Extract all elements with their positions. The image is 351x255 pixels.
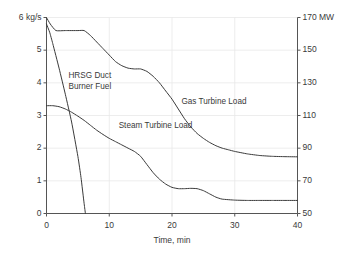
x-axis-tick-4: 40 [293,221,302,230]
y-axis-right-tick-4: 90 [303,143,312,152]
y-axis-right-tick-2: 130 [303,78,317,87]
y-axis-left-tick-6: 0 [37,209,42,218]
series-label-hrsg-line1: HRSG Duct [68,71,111,80]
y-axis-left-tick-3: 3 [37,111,42,120]
series-label-gas-turbine-load: Gas Turbine Load [181,96,246,107]
y-axis-right-tick-0: 170 MW [303,13,335,22]
y-axis-right-tick-5: 70 [303,176,312,185]
y-axis-left-tick-2: 4 [37,78,42,87]
y-axis-left-tick-5: 1 [37,176,42,185]
series-label-hrsg-line2: Burner Fuel [68,82,111,91]
y-axis-left-tick-4: 2 [37,143,42,152]
x-axis-title: Time, min [154,236,191,245]
x-axis-tick-1: 10 [105,221,114,230]
x-axis-tick-3: 30 [230,221,239,230]
x-axis-tick-2: 20 [167,221,176,230]
series-label-hrsg-duct-burner-fuel: HRSG Duct Burner Fuel [68,70,111,92]
y-axis-right-tick-6: 50 [303,209,312,218]
y-axis-left-tick-0: 6 kg/s [19,13,42,22]
gridlines-group [47,18,298,214]
chart-container: 6 kg/s 5 4 3 2 1 0 170 MW 150 130 110 90… [0,0,351,255]
y-axis-left-tick-1: 5 [37,45,42,54]
x-axis-tick-0: 0 [44,221,49,230]
y-axis-right-tick-3: 110 [303,111,317,120]
series-line-hrsg-duct-burner-fuel [47,24,86,213]
y-axis-right-tick-1: 150 [303,45,317,54]
series-label-steam-turbine-load: Steam Turbine Load [119,120,193,131]
